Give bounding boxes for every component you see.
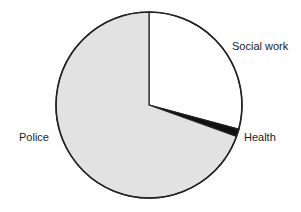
label-health: Health (244, 131, 276, 144)
label-police: Police (19, 131, 49, 144)
pie-slices (56, 12, 242, 198)
pie-chart (0, 0, 301, 212)
label-social-work: Social work (232, 40, 288, 53)
